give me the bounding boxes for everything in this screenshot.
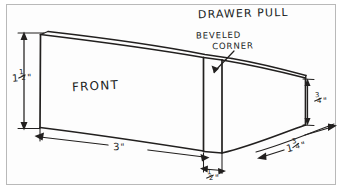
bevel-bottom-edge [204,152,223,154]
end-height-denominator: 4 [317,98,322,105]
beveled-corner-label-line1: BEVELED [196,30,242,41]
bevel-top-edge [204,58,223,61]
beveled-corner-label: BEVELED CORNER [196,29,254,51]
front-width-dimension-text: 3" [113,140,125,153]
taper-top-back-edge [232,59,306,76]
sketch-page: DRAWER PULL BEVELED CORNER FRONT 112" 3"… [0,0,344,196]
bevel-width-dimension-text: 12" [206,172,220,183]
end-height-unit: " [322,96,327,106]
end-height-dimension-text: 34" [314,95,328,106]
drawer-pull-drawing [0,0,344,196]
bevel-width-unit: " [214,173,219,183]
taper-top-edge [222,60,306,78]
taper-length-arrow-lower [257,153,267,161]
front-width-line-right [148,150,204,157]
front-top-edge [41,35,204,58]
end-height-ext-top [303,79,314,80]
front-face-label: FRONT [72,78,120,94]
front-left-edge [40,35,41,128]
end-height-fraction: 34 [314,95,322,106]
height-dimension-text: 112" [12,71,32,83]
front-width-arrow-right [201,154,210,162]
beveled-corner-arrow-head [212,66,220,74]
front-width-unit: " [119,142,124,152]
height-fraction: 12 [18,72,27,84]
height-unit: " [26,72,32,82]
front-width-arrow-left [35,133,45,141]
front-width-line-left [40,137,108,145]
beveled-corner-label-line2: CORNER [196,40,254,52]
bevel-width-denominator: 2 [209,175,214,182]
drawing-title: DRAWER PULL [198,6,289,22]
height-arrow-bottom [21,122,28,131]
right-end-depth-edge [306,76,307,79]
bevel-width-fraction: 12 [206,172,214,183]
end-height-ext-bottom [303,125,314,126]
height-denominator: 2 [21,75,26,82]
taper-length-denominator: 4 [295,143,301,151]
